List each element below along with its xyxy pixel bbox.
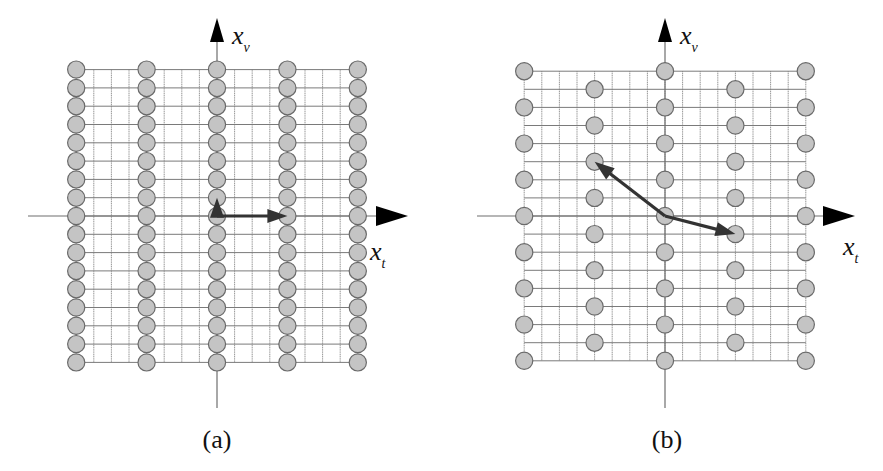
lattice-point [349, 317, 366, 334]
lattice-point [208, 171, 225, 188]
lattice-point [279, 134, 296, 151]
lattice-point [349, 189, 366, 206]
lattice-point [208, 226, 225, 243]
lattice-point [586, 189, 603, 206]
lattice-point [208, 61, 225, 78]
lattice-point [208, 281, 225, 298]
lattice-point [349, 336, 366, 353]
lattice-point [208, 153, 225, 170]
lattice-point [279, 116, 296, 133]
lattice-point [349, 134, 366, 151]
lattice-point [138, 354, 155, 371]
lattice-point [68, 262, 85, 279]
x-axis-arrowhead-icon [823, 206, 855, 226]
lattice-point [138, 134, 155, 151]
panel-b [477, 18, 855, 408]
panel-b-x-axis-label: xt [842, 232, 860, 266]
lattice-point [349, 281, 366, 298]
lattice-point [208, 79, 225, 96]
lattice-point [516, 352, 533, 369]
lattice-point [797, 135, 814, 152]
lattice-point [349, 153, 366, 170]
lattice-point [208, 134, 225, 151]
lattice-point [279, 61, 296, 78]
lattice-point [68, 207, 85, 224]
lattice-point [279, 79, 296, 96]
lattice-point [279, 336, 296, 353]
lattice-point [138, 317, 155, 334]
lattice-point [349, 171, 366, 188]
lattice-point [586, 226, 603, 243]
lattice-point [349, 299, 366, 316]
lattice-point [279, 281, 296, 298]
lattice-point [656, 352, 673, 369]
lattice-point [797, 316, 814, 333]
lattice-point [208, 244, 225, 261]
lattice-point [138, 79, 155, 96]
lattice-point [349, 79, 366, 96]
lattice-point [279, 354, 296, 371]
lattice-point [586, 334, 603, 351]
lattice-point [727, 334, 744, 351]
lattice-point [279, 171, 296, 188]
lattice-point [68, 354, 85, 371]
lattice-point [727, 298, 744, 315]
lattice-point [279, 189, 296, 206]
lattice-point [516, 244, 533, 261]
x-axis-arrowhead-icon [376, 206, 408, 226]
lattice-point [138, 207, 155, 224]
lattice-point [656, 280, 673, 297]
lattice-point [279, 317, 296, 334]
panel-a-x-axis-label: xt [369, 237, 387, 271]
panel-b-caption: (b) [652, 425, 682, 454]
lattice-point [349, 354, 366, 371]
panel-a-caption: (a) [203, 425, 232, 454]
basis-vector-2 [665, 216, 722, 231]
lattice-point [656, 99, 673, 116]
lattice-point [586, 81, 603, 98]
lattice-figure: xt xv (a) xt xv (b) [0, 0, 883, 471]
lattice-point [516, 99, 533, 116]
lattice-point [68, 336, 85, 353]
lattice-point [727, 153, 744, 170]
lattice-point [138, 244, 155, 261]
lattice-point [349, 116, 366, 133]
lattice-point [68, 134, 85, 151]
lattice-point [68, 171, 85, 188]
lattice-point [279, 153, 296, 170]
lattice-point [349, 207, 366, 224]
panel-a [28, 18, 408, 408]
lattice-point [797, 280, 814, 297]
lattice-point [138, 299, 155, 316]
lattice-point [586, 298, 603, 315]
y-axis-arrowhead-icon [210, 18, 224, 42]
lattice-point [727, 262, 744, 279]
y-axis-arrowhead-icon [658, 18, 672, 42]
lattice-point [138, 281, 155, 298]
lattice-point [279, 262, 296, 279]
lattice-point [797, 99, 814, 116]
lattice-point [279, 98, 296, 115]
lattice-point [208, 116, 225, 133]
lattice-point [656, 316, 673, 333]
lattice-point [138, 189, 155, 206]
lattice-point [656, 171, 673, 188]
lattice-point [208, 262, 225, 279]
lattice-point [797, 352, 814, 369]
lattice-point [516, 316, 533, 333]
lattice-point [797, 207, 814, 224]
basis-vector-1 [606, 170, 665, 216]
lattice-point [208, 354, 225, 371]
lattice-point [68, 98, 85, 115]
lattice-point [68, 317, 85, 334]
lattice-point [516, 171, 533, 188]
lattice-point [138, 61, 155, 78]
lattice-point [208, 299, 225, 316]
lattice-point [68, 299, 85, 316]
lattice-point [68, 79, 85, 96]
lattice-point [727, 117, 744, 134]
lattice-point [656, 244, 673, 261]
lattice-point [516, 207, 533, 224]
lattice-point [516, 63, 533, 80]
lattice-point [727, 81, 744, 98]
